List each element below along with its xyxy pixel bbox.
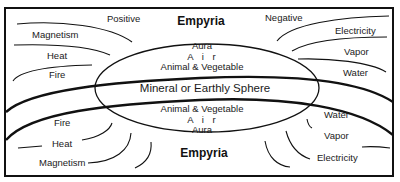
water-tick-bottom xyxy=(307,119,312,128)
label-water-bottom: Water xyxy=(324,110,349,120)
layer-mineral-earthly-sphere: Mineral or Earthly Sphere xyxy=(140,83,270,95)
water-line-top xyxy=(298,59,386,72)
label-heat-top: Heat xyxy=(47,51,67,61)
vapor-line-top xyxy=(292,37,387,51)
label-electricity-bottom: Electricity xyxy=(317,153,358,163)
label-water-top: Water xyxy=(343,68,368,78)
label-vapor-bottom: Vapor xyxy=(324,131,349,141)
label-positive: Positive xyxy=(107,14,140,24)
layer-animal-vegetable-lower: Animal & Vegetable xyxy=(161,104,244,114)
empyria-title-top: Empyria xyxy=(177,15,224,27)
label-heat-bottom: Heat xyxy=(52,139,72,149)
field-curve-bottom-left xyxy=(135,142,151,168)
layer-aura-upper: Aura xyxy=(192,41,212,51)
layer-animal-vegetable-upper: Animal & Vegetable xyxy=(161,62,244,72)
label-fire-top: Fire xyxy=(49,70,65,80)
vapor-curve-bottom xyxy=(286,131,310,159)
heat-line-bottom xyxy=(18,146,42,148)
label-electricity-top: Electricity xyxy=(335,26,376,36)
label-negative: Negative xyxy=(265,13,303,23)
layer-aura-lower: Aura xyxy=(192,125,212,135)
heat-curve-bottom xyxy=(82,123,112,140)
empyria-diagram: Empyria Positive Magnetism Heat Fire Neg… xyxy=(0,0,400,182)
label-vapor-top: Vapor xyxy=(344,47,369,57)
electricity-curve-bottom xyxy=(265,141,290,167)
label-magnetism-top: Magnetism xyxy=(32,30,78,40)
empyria-title-bottom: Empyria xyxy=(180,147,227,159)
label-magnetism-bottom: Magnetism xyxy=(39,158,85,168)
label-fire-bottom: Fire xyxy=(54,118,70,128)
field-line-bottom-right xyxy=(362,147,390,148)
